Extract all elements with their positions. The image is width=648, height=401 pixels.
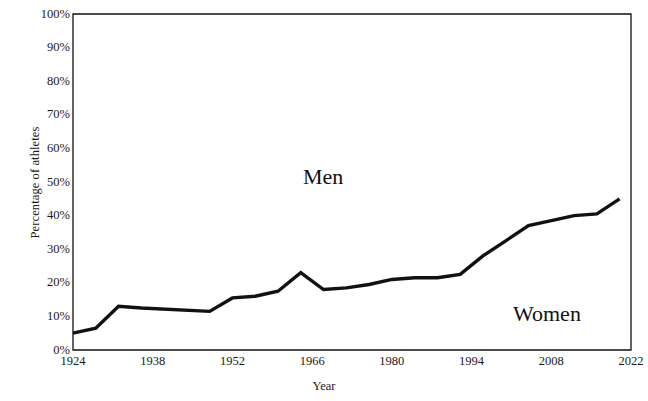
x-axis-tick-label: 1938	[123, 355, 183, 368]
plot-frame	[73, 14, 631, 350]
series-annotation-men: Men	[303, 166, 343, 188]
x-axis-tick-label: 1952	[202, 355, 262, 368]
x-axis-tick-label: 1966	[282, 355, 342, 368]
x-axis-tick-label: 2022	[601, 355, 648, 368]
plot-area	[0, 0, 648, 401]
x-axis-tick-label: 2008	[521, 355, 581, 368]
x-axis-tick-labels: 19241938195219661980199420082022	[0, 355, 648, 375]
chart-container: Percentage of athletes 0%10%20%30%40%50%…	[0, 0, 648, 401]
series-annotation-women: Women	[513, 303, 581, 325]
x-axis-tick-label: 1994	[442, 355, 502, 368]
x-axis-tick-label: 1980	[362, 355, 422, 368]
x-axis-title: Year	[0, 379, 648, 394]
x-axis-tick-label: 1924	[43, 355, 103, 368]
